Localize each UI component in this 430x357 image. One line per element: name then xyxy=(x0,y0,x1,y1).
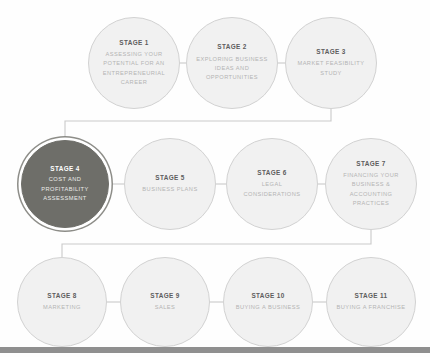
stage-title: LEGAL CONSIDERATIONS xyxy=(234,180,310,198)
flow-diagram: STAGE 1ASSESSING YOUR POTENTIAL FOR AN E… xyxy=(0,0,430,357)
footer-bar xyxy=(0,347,430,353)
node-stage-6[interactable]: STAGE 6LEGAL CONSIDERATIONS xyxy=(226,138,318,230)
stage-number: STAGE 1 xyxy=(119,39,148,46)
stage-number: STAGE 2 xyxy=(217,43,246,50)
stage-number: STAGE 8 xyxy=(47,292,76,299)
node-stage-1[interactable]: STAGE 1ASSESSING YOUR POTENTIAL FOR AN E… xyxy=(88,17,180,109)
stage-title: SALES xyxy=(155,303,176,312)
stage-number: STAGE 4 xyxy=(50,165,79,172)
stage-number: STAGE 3 xyxy=(316,48,345,55)
stage-number: STAGE 5 xyxy=(155,174,184,181)
stage-number: STAGE 11 xyxy=(355,292,388,299)
node-stage-2[interactable]: STAGE 2EXPLORING BUSINESS IDEAS AND OPPO… xyxy=(186,17,278,109)
stage-number: STAGE 10 xyxy=(251,292,284,299)
stage-title: FINANCING YOUR BUSINESS & ACCOUNTING PRA… xyxy=(333,171,409,208)
stage-title: MARKET FEASIBILITY STUDY xyxy=(293,59,369,77)
node-stage-4[interactable]: STAGE 4COST AND PROFITABILITY ASSESSMENT xyxy=(21,140,109,228)
node-stage-3[interactable]: STAGE 3MARKET FEASIBILITY STUDY xyxy=(285,17,377,109)
stage-title: BUYING A FRANCHISE xyxy=(336,303,405,312)
node-stage-8[interactable]: STAGE 8MARKETING xyxy=(17,257,107,347)
node-stage-11[interactable]: STAGE 11BUYING A FRANCHISE xyxy=(326,257,416,347)
link-7-to-8 xyxy=(62,230,371,257)
stage-number: STAGE 9 xyxy=(150,292,179,299)
node-stage-7[interactable]: STAGE 7FINANCING YOUR BUSINESS & ACCOUNT… xyxy=(325,138,417,230)
stage-title: ASSESSING YOUR POTENTIAL FOR AN ENTREPRE… xyxy=(96,50,172,87)
node-stage-9[interactable]: STAGE 9SALES xyxy=(120,257,210,347)
stage-title: EXPLORING BUSINESS IDEAS AND OPPORTUNITI… xyxy=(194,55,270,83)
node-stage-5[interactable]: STAGE 5BUSINESS PLANS xyxy=(124,138,216,230)
stage-title: BUYING A BUSINESS xyxy=(236,303,301,312)
stage-title: BUSINESS PLANS xyxy=(142,185,197,194)
stage-number: STAGE 7 xyxy=(356,160,385,167)
stage-title: COST AND PROFITABILITY ASSESSMENT xyxy=(29,175,101,203)
stage-title: MARKETING xyxy=(43,303,81,312)
node-stage-10[interactable]: STAGE 10BUYING A BUSINESS xyxy=(223,257,313,347)
link-3-to-4 xyxy=(65,109,331,140)
stage-number: STAGE 6 xyxy=(257,169,286,176)
